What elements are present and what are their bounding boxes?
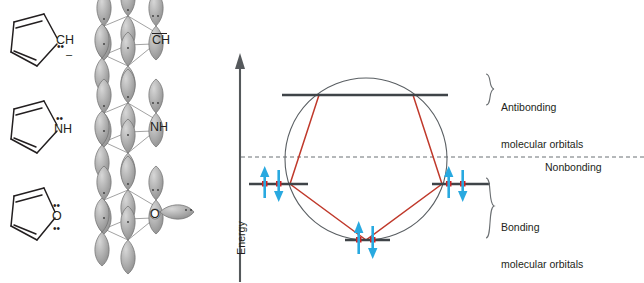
level-bonding-right — [432, 166, 490, 202]
energy-axis-label-wrap: Energy — [213, 100, 273, 130]
brace-antibonding — [486, 74, 494, 105]
antibonding-label-line2: molecular orbitals — [501, 138, 583, 150]
spin-down-arrow — [274, 170, 283, 202]
energy-axis-label: Energy — [235, 208, 247, 268]
frost-pentagon — [290, 95, 442, 240]
spin-up-arrow — [444, 166, 453, 198]
frost-circle — [285, 78, 447, 240]
spin-down-arrow — [458, 170, 467, 202]
spin-up-arrow — [260, 166, 269, 198]
antibonding-label-line1: Antibonding — [501, 101, 583, 113]
spin-down-arrow — [368, 226, 377, 259]
nonbonding-label: Nonbonding — [545, 161, 602, 173]
bonding-label-line2: molecular orbitals — [501, 258, 583, 270]
figure-root: CH •• – — [0, 0, 644, 283]
level-bonding-left — [249, 166, 308, 202]
bonding-label: Bonding molecular orbitals — [501, 196, 583, 283]
brace-bonding — [486, 178, 494, 238]
bonding-label-line1: Bonding — [501, 221, 583, 233]
